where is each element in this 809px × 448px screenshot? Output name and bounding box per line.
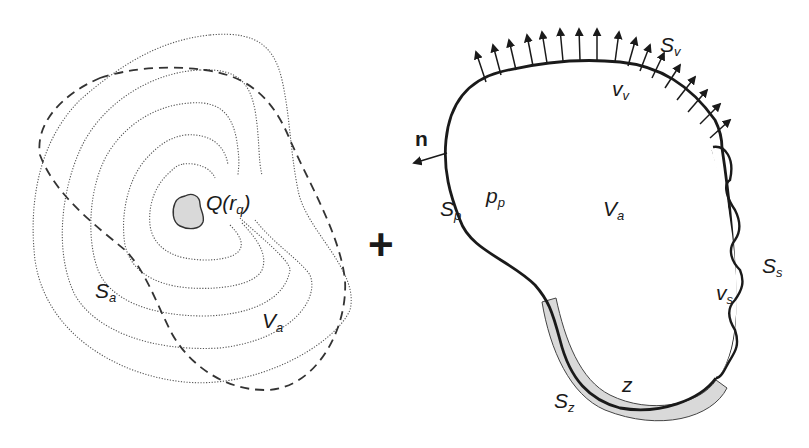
structure-surface-label: Ss	[762, 255, 783, 279]
structure-velocity-label: vs	[716, 282, 733, 306]
pressure-surface-label: Sp	[440, 198, 461, 222]
surface-sa-label: Sa	[95, 280, 116, 304]
impedance-surface-label: Sz	[554, 390, 575, 414]
source-label: Q(rq)	[206, 192, 251, 216]
diagram-canvas	[0, 0, 809, 448]
volume-va-label-right: Va	[603, 198, 624, 222]
volume-va-label-left: Va	[262, 310, 283, 334]
impedance-label: z	[622, 374, 633, 395]
acoustic-domain	[445, 60, 742, 420]
normal-vector-arrow	[414, 153, 447, 163]
structure-surface-wavy	[713, 147, 742, 378]
pressure-label: pp	[486, 185, 505, 209]
velocity-surface-label: Sv	[660, 34, 681, 58]
source-blob	[173, 194, 203, 228]
normal-label: n	[415, 128, 428, 149]
plus-operator: +	[368, 223, 394, 267]
velocity-arrows	[476, 29, 730, 138]
velocity-label: vv	[612, 78, 629, 102]
